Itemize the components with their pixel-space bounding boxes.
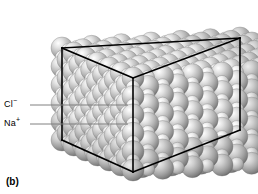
label-sodium: Na+ (4, 119, 20, 128)
label-sodium-text: Na (4, 118, 16, 128)
figure-caption: (b) (6, 176, 19, 187)
crystal-lattice-illustration (0, 0, 258, 194)
label-chloride: Cl− (4, 100, 17, 109)
label-sodium-charge: + (16, 116, 20, 123)
label-chloride-text: Cl (4, 99, 13, 109)
label-chloride-charge: − (13, 97, 17, 104)
nacl-crystal-figure: Cl− Na+ (b) (0, 0, 258, 194)
ion-sphere-group (51, 27, 258, 181)
